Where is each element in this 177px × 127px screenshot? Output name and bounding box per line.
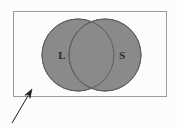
venn-diagram-canvas: L S: [0, 0, 177, 127]
venn-diagram-figure: L S: [0, 0, 177, 127]
set-label-left: L: [58, 49, 65, 61]
set-label-right: S: [119, 49, 125, 61]
